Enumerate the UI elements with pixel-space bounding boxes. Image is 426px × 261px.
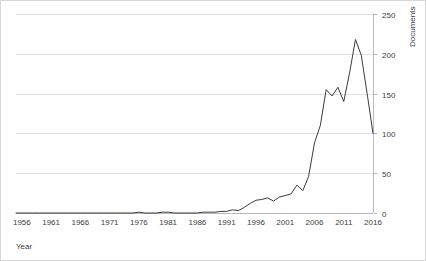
x-axis-tick-label: 1986	[189, 218, 207, 227]
x-axis-tick-label: 1996	[247, 218, 265, 227]
x-axis-title: Year	[16, 242, 33, 251]
x-axis-tick-label: 1976	[130, 218, 148, 227]
y-axis-tick-label: 250	[382, 11, 396, 20]
x-axis-tick-label: 1971	[101, 218, 119, 227]
chart-container: 250200150100500 195619611966197119761981…	[0, 0, 426, 261]
gridlines-group	[16, 15, 373, 174]
y-axis-tick-label: 100	[382, 130, 396, 139]
x-axis-tick-label: 2011	[335, 218, 353, 227]
y-axis-tick-label: 0	[382, 210, 387, 219]
data-series-documents	[16, 39, 373, 213]
x-axis-tick-label: 1956	[13, 218, 31, 227]
x-axis-tick-label: 1966	[71, 218, 89, 227]
y-axis-tick-marks	[374, 15, 378, 214]
x-axis-tick-label: 2016	[364, 218, 382, 227]
x-axis-tick-label: 1991	[218, 218, 236, 227]
y-axis-tick-label: 50	[382, 170, 391, 179]
y-axis-tick-label: 200	[382, 51, 396, 60]
y-axis-tick-labels: 250200150100500	[382, 11, 396, 219]
y-axis-title: Documents	[408, 7, 417, 47]
x-axis-tick-label: 1961	[42, 218, 60, 227]
x-axis-tick-label: 2001	[276, 218, 294, 227]
x-axis-tick-label: 2006	[306, 218, 324, 227]
y-axis-tick-label: 150	[382, 91, 396, 100]
x-axis-tick-labels: 1956196119661971197619811986199119962001…	[13, 218, 382, 227]
x-axis-tick-label: 1981	[159, 218, 177, 227]
line-chart: 250200150100500 195619611966197119761981…	[1, 1, 426, 261]
